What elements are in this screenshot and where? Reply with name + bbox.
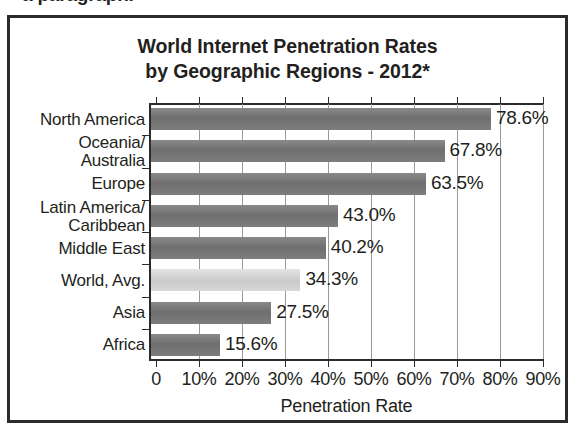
x-tick-mark-bottom [156,359,157,367]
axis-line-bottom [149,359,544,361]
category-label-line: North America [40,111,145,128]
bar-row[interactable]: 34.3% [151,269,544,291]
category-label-line: Europe [91,175,145,192]
x-axis-tick-labels: 010%20%30%40%50%60%70%80%90% [149,369,569,393]
category-label-line: Asia [113,304,145,321]
bar[interactable] [151,302,271,324]
x-tick-mark-top [156,97,157,104]
bar-row[interactable]: 40.2% [151,237,544,259]
x-tick-mark-bottom [328,359,329,367]
category-label: North America [40,111,145,128]
x-tick-mark-bottom [500,359,501,367]
x-tick-mark-top [328,97,329,104]
x-tick-label: 40% [311,369,346,390]
bar-value-label: 27.5% [276,301,328,323]
x-tick-label: 50% [354,369,389,390]
category-label: Latin America/Caribbean [40,199,145,234]
bar[interactable] [151,173,426,195]
bar-row[interactable]: 27.5% [151,302,544,324]
bar-value-label: 40.2% [331,236,383,258]
x-tick-label: 10% [182,369,217,390]
category-label-line: World, Avg. [61,272,145,289]
category-label: World, Avg. [61,272,145,289]
category-tick-mark [142,297,150,298]
x-tick-label: 20% [225,369,260,390]
x-tick-mark-top [285,97,286,104]
bar-row[interactable]: 43.0% [151,205,544,227]
x-tick-mark-top [500,97,501,104]
category-label: Europe [91,175,145,192]
category-tick-mark [142,168,150,169]
plot-area: 78.6%67.8%63.5%43.0%40.2%34.3%27.5%15.6% [149,103,544,361]
chart-title-line-1: World Internet Penetration Rates [10,34,565,59]
x-tick-mark-bottom [371,359,372,367]
bar-value-label: 34.3% [305,268,357,290]
category-tick-mark [142,200,150,201]
category-label: Oceania/Australia [79,134,145,169]
x-tick-mark-top [242,97,243,104]
bar[interactable] [151,140,445,162]
x-axis-title: Penetration Rate [149,396,544,417]
x-tick-label: 70% [440,369,475,390]
x-tick-label: 30% [268,369,303,390]
bar[interactable] [151,205,338,227]
category-label-line: Latin America/ [40,199,145,216]
category-tick-mark [142,264,150,265]
bar[interactable] [151,237,326,259]
chart-title: World Internet Penetration Rates by Geog… [10,34,565,84]
category-label-line: Middle East [58,240,145,257]
x-tick-mark-top [457,97,458,104]
x-tick-mark-top [414,97,415,104]
chart-title-line-2: by Geographic Regions - 2012* [10,59,565,84]
bar[interactable] [151,334,220,356]
category-label-line: Oceania/ [79,134,145,151]
chart-figure-frame: World Internet Penetration Rates by Geog… [7,15,568,423]
bar-row[interactable]: 63.5% [151,173,544,195]
x-tick-mark-bottom [285,359,286,367]
category-label-line: Africa [103,336,145,353]
bar-value-label: 67.8% [450,139,502,161]
x-tick-mark-top [543,97,544,104]
bar[interactable] [151,269,300,291]
x-tick-mark-bottom [199,359,200,367]
bar-row[interactable]: 67.8% [151,140,544,162]
x-tick-mark-top [199,97,200,104]
category-tick-mark [142,232,150,233]
category-tick-mark [142,329,150,330]
x-tick-label: 0 [151,369,161,390]
cropped-caption-text: a paragraph. [22,0,134,6]
x-tick-label: 90% [526,369,561,390]
bar-value-label: 63.5% [431,172,483,194]
category-label: Asia [113,304,145,321]
category-tick-mark [142,135,150,136]
category-label-line: Australia [79,152,145,169]
axis-line-top [149,103,544,105]
x-tick-label: 80% [483,369,518,390]
category-label: Africa [103,336,145,353]
x-tick-mark-bottom [543,359,544,367]
x-tick-label: 60% [397,369,432,390]
bar-row[interactable]: 15.6% [151,334,544,356]
bar-value-label: 15.6% [225,333,277,355]
x-tick-mark-top [371,97,372,104]
bar-value-label: 78.6% [496,107,548,129]
bar[interactable] [151,108,491,130]
bar-row[interactable]: 78.6% [151,108,544,130]
x-tick-mark-bottom [242,359,243,367]
x-tick-mark-bottom [414,359,415,367]
category-label-line: Caribbean [40,217,145,234]
category-axis-labels: North AmericaOceania/AustraliaEuropeLati… [10,103,145,361]
x-tick-mark-bottom [457,359,458,367]
bar-value-label: 43.0% [343,204,395,226]
category-label: Middle East [58,240,145,257]
